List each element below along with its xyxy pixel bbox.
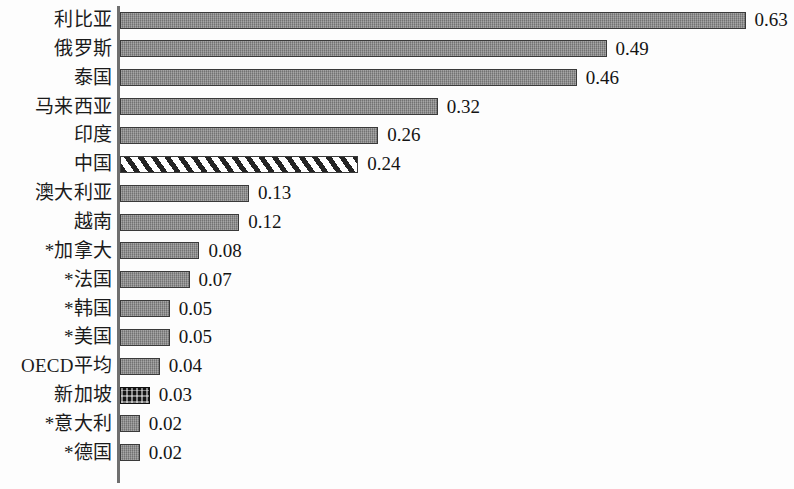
- bar-row: 中国0.24: [0, 150, 794, 179]
- category-label: 澳大利亚: [35, 179, 112, 208]
- bar-row: *加拿大0.08: [0, 237, 794, 266]
- bar-dark: [120, 387, 150, 404]
- bar-value-label: 0.03: [159, 381, 192, 410]
- bar-gray: [120, 40, 607, 57]
- bar-gray: [120, 444, 140, 461]
- bar-row: 新加坡0.03: [0, 381, 794, 410]
- bar-wrapper: [120, 69, 577, 86]
- bar-row: *韩国0.05: [0, 295, 794, 324]
- bar-wrapper: [120, 358, 160, 375]
- bar-gray: [120, 358, 160, 375]
- bar-row: 利比亚0.63: [0, 6, 794, 35]
- bar-value-label: 0.13: [258, 179, 291, 208]
- bar-row: OECD平均0.04: [0, 352, 794, 381]
- bar-wrapper: [120, 185, 249, 202]
- bar-wrapper: [120, 329, 170, 346]
- bar-gray: [120, 214, 239, 231]
- category-label: *法国: [64, 266, 112, 295]
- category-label: *意大利: [45, 410, 112, 439]
- bar-wrapper: [120, 271, 190, 288]
- category-label: 新加坡: [54, 381, 112, 410]
- bar-gray: [120, 415, 140, 432]
- plot-area: 利比亚0.63俄罗斯0.49泰国0.46马来西亚0.32印度0.26中国0.24…: [0, 0, 794, 489]
- bar-row: *德国0.02: [0, 439, 794, 468]
- bar-wrapper: [120, 214, 239, 231]
- category-label: *美国: [64, 323, 112, 352]
- bar-gray: [120, 12, 746, 29]
- bar-value-label: 0.02: [149, 410, 182, 439]
- bar-chart: 利比亚0.63俄罗斯0.49泰国0.46马来西亚0.32印度0.26中国0.24…: [0, 0, 794, 489]
- bar-wrapper: [120, 242, 199, 259]
- bar-wrapper: [120, 156, 358, 173]
- category-label: 越南: [74, 208, 112, 237]
- bar-gray: [120, 69, 577, 86]
- bar-value-label: 0.08: [208, 237, 241, 266]
- bar-value-label: 0.26: [387, 121, 420, 150]
- bar-gray: [120, 329, 170, 346]
- bar-gray: [120, 127, 378, 144]
- category-label: OECD平均: [21, 352, 112, 381]
- bar-wrapper: [120, 98, 438, 115]
- bar-value-label: 0.07: [199, 266, 232, 295]
- bar-gray: [120, 185, 249, 202]
- bar-highlight: [120, 156, 358, 173]
- bar-value-label: 0.46: [586, 64, 619, 93]
- bar-value-label: 0.49: [616, 35, 649, 64]
- bar-row: *美国0.05: [0, 323, 794, 352]
- category-label: 印度: [74, 121, 112, 150]
- bar-row: 马来西亚0.32: [0, 93, 794, 122]
- bar-wrapper: [120, 40, 607, 57]
- bar-gray: [120, 300, 170, 317]
- bar-value-label: 0.05: [179, 295, 212, 324]
- category-label: 马来西亚: [35, 93, 112, 122]
- category-label: *韩国: [64, 295, 112, 324]
- bar-row: 越南0.12: [0, 208, 794, 237]
- bar-wrapper: [120, 387, 150, 404]
- bar-gray: [120, 242, 199, 259]
- bar-wrapper: [120, 12, 746, 29]
- bar-gray: [120, 98, 438, 115]
- category-label: *德国: [64, 439, 112, 468]
- category-label: 俄罗斯: [54, 35, 112, 64]
- bar-row: *意大利0.02: [0, 410, 794, 439]
- bar-gray: [120, 271, 190, 288]
- bar-value-label: 0.12: [248, 208, 281, 237]
- category-label: 中国: [74, 150, 112, 179]
- bar-value-label: 0.05: [179, 323, 212, 352]
- bar-row: 俄罗斯0.49: [0, 35, 794, 64]
- category-label: 泰国: [74, 64, 112, 93]
- bar-wrapper: [120, 444, 140, 461]
- bar-value-label: 0.02: [149, 439, 182, 468]
- bar-row: 泰国0.46: [0, 64, 794, 93]
- bar-row: 印度0.26: [0, 121, 794, 150]
- bar-value-label: 0.04: [169, 352, 202, 381]
- bar-row: 澳大利亚0.13: [0, 179, 794, 208]
- bar-value-label: 0.63: [755, 6, 788, 35]
- bar-wrapper: [120, 415, 140, 432]
- category-label: *加拿大: [45, 237, 112, 266]
- bar-wrapper: [120, 127, 378, 144]
- category-label: 利比亚: [54, 6, 112, 35]
- bar-row: *法国0.07: [0, 266, 794, 295]
- bar-value-label: 0.24: [367, 150, 400, 179]
- bar-value-label: 0.32: [447, 93, 480, 122]
- bar-wrapper: [120, 300, 170, 317]
